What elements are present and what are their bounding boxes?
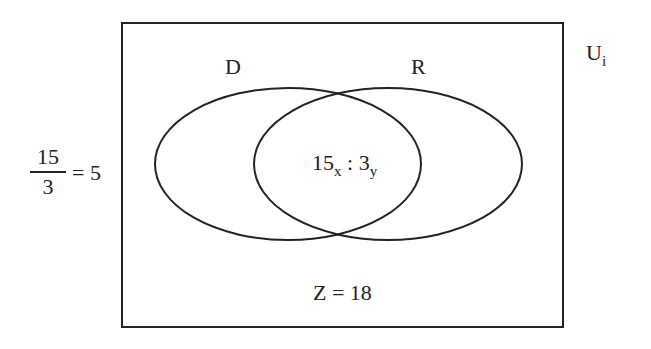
universe-label-sub: i — [602, 53, 606, 69]
universe-label-main: U — [586, 40, 602, 65]
ratio-denominator: 3 — [28, 176, 68, 198]
fraction-bar — [30, 171, 66, 173]
intersection-separator: : — [342, 150, 359, 175]
ratio-fraction: 15 3 — [28, 146, 68, 198]
set-r-ellipse — [254, 88, 522, 240]
intersection-b-sub: y — [370, 163, 378, 179]
set-d-ellipse — [155, 88, 421, 240]
universe-label: Ui — [586, 42, 606, 64]
intersection-b-value: 3 — [359, 150, 370, 175]
set-r-label: R — [411, 56, 426, 78]
intersection-a-sub: x — [334, 163, 342, 179]
ratio-result: = 5 — [72, 162, 101, 184]
set-d-label: D — [225, 56, 241, 78]
intersection-a-value: 15 — [312, 150, 334, 175]
intersection-label: 15x : 3y — [312, 152, 377, 174]
outside-label: Z = 18 — [313, 282, 372, 304]
ratio-numerator: 15 — [28, 146, 68, 168]
